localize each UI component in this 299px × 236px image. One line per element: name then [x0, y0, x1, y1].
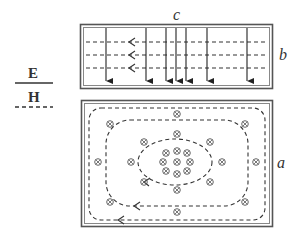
legend-h-label: H [28, 89, 40, 105]
h-field-lines-top [86, 42, 268, 68]
h-loop-outer [89, 108, 265, 220]
bottom-view: a [82, 101, 286, 227]
e-field-arrows [106, 28, 247, 81]
h-field-loops [89, 108, 265, 220]
legend: E H [15, 65, 53, 107]
label-c: c [173, 6, 180, 23]
legend-e-label: E [28, 65, 38, 81]
top-view: c b [81, 6, 288, 89]
waveguide-field-diagram: E H c b a [0, 0, 299, 236]
into-page-symbols-center [160, 148, 194, 178]
into-page-symbols-outer [95, 111, 260, 216]
label-a: a [277, 154, 285, 171]
label-b: b [279, 46, 287, 63]
bottom-frame-outer [82, 101, 273, 227]
